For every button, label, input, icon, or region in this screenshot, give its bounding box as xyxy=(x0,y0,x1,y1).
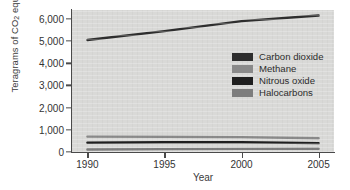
y-tick-label: 6,000 xyxy=(18,13,64,24)
legend-swatch xyxy=(232,77,253,85)
legend-swatch xyxy=(232,89,253,97)
legend-item: Halocarbons xyxy=(232,88,324,98)
y-tick-mark xyxy=(66,40,71,41)
emissions-line-chart: Teragrams of CO2 equivalents 01,0002,000… xyxy=(0,0,350,190)
x-tick-label: 1990 xyxy=(76,159,98,170)
legend-swatch xyxy=(232,53,253,61)
x-tick-mark xyxy=(319,153,320,158)
legend-label: Nitrous oxide xyxy=(259,76,315,86)
legend-swatch xyxy=(232,65,253,73)
y-tick-mark xyxy=(66,85,71,86)
legend-item: Carbon dioxide xyxy=(232,52,324,62)
y-tick-mark xyxy=(66,151,71,152)
y-tick-mark xyxy=(66,129,71,130)
y-tick-mark xyxy=(66,18,71,19)
y-tick-label: 0 xyxy=(18,147,64,158)
legend-label: Methane xyxy=(259,64,296,74)
x-tick-mark xyxy=(87,153,88,158)
legend-item: Nitrous oxide xyxy=(232,76,324,86)
y-tick-label: 5,000 xyxy=(18,36,64,47)
legend-label: Carbon dioxide xyxy=(259,52,324,62)
y-tick-label: 2,000 xyxy=(18,102,64,113)
y-tick-label: 4,000 xyxy=(18,58,64,69)
y-axis-ticks: 01,0002,0003,0004,0005,0006,000 xyxy=(18,0,64,190)
x-axis-title: Year xyxy=(72,172,334,183)
x-tick-mark xyxy=(242,153,243,158)
x-tick-label: 1995 xyxy=(153,159,175,170)
x-tick-mark xyxy=(164,153,165,158)
legend-label: Halocarbons xyxy=(259,88,313,98)
x-tick-label: 2000 xyxy=(230,159,252,170)
legend-item: Methane xyxy=(232,64,324,74)
y-tick-mark xyxy=(66,63,71,64)
y-tick-label: 1,000 xyxy=(18,124,64,135)
y-tick-label: 3,000 xyxy=(18,80,64,91)
x-tick-label: 2005 xyxy=(307,159,329,170)
chart-legend: Carbon dioxideMethaneNitrous oxideHaloca… xyxy=(232,52,324,98)
y-tick-mark xyxy=(66,107,71,108)
